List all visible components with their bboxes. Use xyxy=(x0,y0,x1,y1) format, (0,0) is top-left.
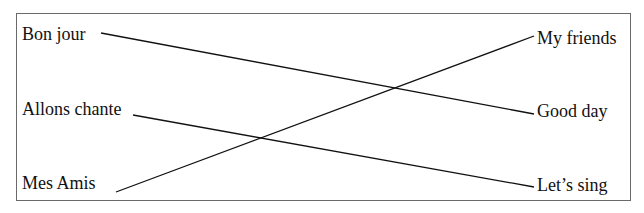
left-item-bonjour: Bon jour xyxy=(22,24,86,44)
line-bonjour-goodday xyxy=(101,33,534,114)
left-item-allons-chante: Allons chante xyxy=(22,99,121,119)
left-item-mes-amis: Mes Amis xyxy=(22,173,96,193)
line-mesamis-myfriends xyxy=(116,36,534,192)
right-item-my-friends: My friends xyxy=(537,28,617,48)
right-item-lets-sing: Let’s sing xyxy=(537,175,608,195)
right-item-good-day: Good day xyxy=(537,101,608,121)
line-allons-letssing xyxy=(133,115,534,187)
